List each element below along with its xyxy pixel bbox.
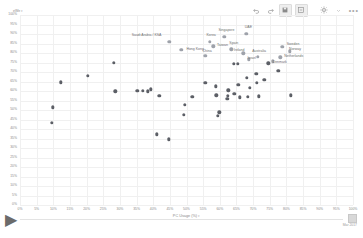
scatter-point-label: Sweden <box>287 43 300 47</box>
y-axis-tick-label: 20% <box>0 165 17 168</box>
scatter-point-label: Netherlands <box>284 55 303 59</box>
scatter-point-label: UAE <box>245 26 252 30</box>
x-axis-tick-label: 75% <box>266 208 273 211</box>
scatter-point-label: Denmark <box>273 61 287 65</box>
gridline-horizontal <box>20 82 353 83</box>
y-axis-tick-label: 65% <box>0 80 17 83</box>
timeline-caption: Mar 2017 <box>343 223 357 227</box>
x-axis-tick-label: 50% <box>183 208 190 211</box>
y-axis-tick-label: 10% <box>0 184 17 187</box>
timeline-track[interactable] <box>20 219 343 220</box>
gridline-horizontal <box>20 72 353 73</box>
scatter-point-label: Spain <box>229 42 238 46</box>
chevron-down-icon[interactable]: ▾ <box>21 9 23 13</box>
x-axis-tick-label: 80% <box>283 208 290 211</box>
y-axis-tick-label: 30% <box>0 146 17 149</box>
timeline-control[interactable]: ▶ Mar 2017 <box>6 214 357 230</box>
gridline-horizontal <box>20 158 353 159</box>
x-axis-tick-label: 15% <box>67 208 74 211</box>
x-axis-tick-label: 90% <box>316 208 323 211</box>
gridline-horizontal <box>20 91 353 92</box>
x-axis-tick-label: 10% <box>50 208 57 211</box>
y-axis-tick-label: 40% <box>0 127 17 130</box>
x-axis-tick-label: 95% <box>333 208 340 211</box>
settings-gear-icon[interactable] <box>319 5 330 16</box>
y-axis-tick-label: 95% <box>0 23 17 26</box>
scatter-point-label: China <box>203 50 212 54</box>
gridline-horizontal <box>20 177 353 178</box>
y-axis-tick-label: 35% <box>0 137 17 140</box>
scatter-point-label: Ireland <box>234 50 245 54</box>
x-axis-tick-label: 20% <box>83 208 90 211</box>
x-axis-tick-label: 100% <box>349 208 358 211</box>
y-axis-tick-label: 5% <box>0 194 17 197</box>
y-axis-tick-label: 75% <box>0 61 17 64</box>
x-axis-tick-label: 0% <box>18 208 23 211</box>
gridline-horizontal <box>20 44 353 45</box>
gridline-horizontal <box>20 205 353 206</box>
y-axis-tick-label: 45% <box>0 118 17 121</box>
gridline-vertical <box>353 15 354 205</box>
scatter-point-label: Korea <box>206 34 215 38</box>
more-options-button[interactable]: ••• <box>347 5 361 16</box>
chevron-down-icon[interactable] <box>333 5 344 16</box>
gridline-horizontal <box>20 63 353 64</box>
undo-icon[interactable] <box>251 5 262 16</box>
scatter-point-label: Saudi Arabia / KSA <box>132 34 162 38</box>
gridline-horizontal <box>20 25 353 26</box>
y-axis-tick-label: 100% <box>0 13 17 16</box>
gridline-horizontal <box>20 120 353 121</box>
scatter-point-label: Taiwan <box>217 44 228 48</box>
gridline-horizontal <box>20 196 353 197</box>
x-axis-tick-label: 45% <box>166 208 173 211</box>
chart-gridlines <box>20 15 353 205</box>
gridline-horizontal <box>20 139 353 140</box>
y-axis-tick-label: 55% <box>0 99 17 102</box>
gridline-horizontal <box>20 34 353 35</box>
x-axis-tick-label: 65% <box>233 208 240 211</box>
scatter-plot-viz: ••• eWe▾ PC Usage (%)▾ 0%5%10%15%20%25%3… <box>0 0 363 238</box>
y-axis-tick-label: 50% <box>0 108 17 111</box>
gridline-horizontal <box>20 167 353 168</box>
y-axis-tick-label: 70% <box>0 70 17 73</box>
y-axis-tick-label: 0% <box>0 203 17 206</box>
scatter-point-label: Norway <box>289 48 301 52</box>
redo-icon[interactable] <box>265 5 276 16</box>
x-axis-tick-label: 55% <box>200 208 207 211</box>
scatter-point-label: Hong Kong <box>186 48 204 52</box>
x-axis-tick-label: 85% <box>300 208 307 211</box>
timeline-handle[interactable] <box>348 214 357 223</box>
x-axis-tick-label: 30% <box>116 208 123 211</box>
play-button[interactable]: ▶ <box>6 215 15 224</box>
gridline-horizontal <box>20 148 353 149</box>
x-axis-tick-label: 35% <box>133 208 140 211</box>
gridline-horizontal <box>20 129 353 130</box>
chart-plot-area[interactable]: eWe▾ PC Usage (%)▾ 0%5%10%15%20%25%30%35… <box>20 15 353 205</box>
gridline-horizontal <box>20 110 353 111</box>
scatter-point-label: Singapore <box>218 29 234 33</box>
x-axis-tick-label: 70% <box>250 208 257 211</box>
y-axis-tick-label: 15% <box>0 175 17 178</box>
gridline-horizontal <box>20 186 353 187</box>
x-axis-tick-label: 5% <box>34 208 39 211</box>
y-axis-tick-label: 60% <box>0 89 17 92</box>
y-axis-tick-label: 90% <box>0 32 17 35</box>
x-axis-tick-label: 40% <box>150 208 157 211</box>
y-axis-tick-label: 85% <box>0 42 17 45</box>
gridline-horizontal <box>20 101 353 102</box>
gridline-horizontal <box>20 15 353 16</box>
x-axis-tick-label: 60% <box>216 208 223 211</box>
x-axis-tick-label: 25% <box>100 208 107 211</box>
y-axis-tick-label: 25% <box>0 156 17 159</box>
y-axis-tick-label: 80% <box>0 51 17 54</box>
scatter-point-label: Israel <box>247 57 256 61</box>
scatter-point-label: Australia <box>252 50 266 54</box>
